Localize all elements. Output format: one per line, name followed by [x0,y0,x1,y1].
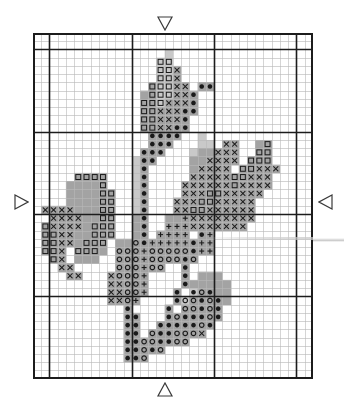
center-marker-left [13,193,29,211]
cross-stitch-chart[interactable] [33,33,313,379]
center-marker-top [156,15,174,31]
pattern-chart-page [0,0,344,406]
center-marker-right [318,193,334,211]
guide-line-right [313,238,344,242]
pattern-grid-canvas[interactable] [33,33,313,379]
center-marker-bottom [156,382,174,398]
